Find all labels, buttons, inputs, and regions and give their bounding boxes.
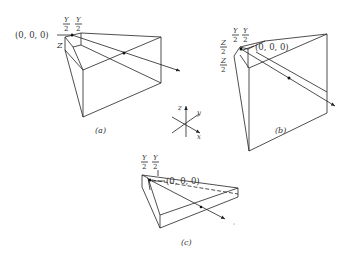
y-half-den-a2: 2 — [76, 25, 80, 33]
caption-c: (c) — [181, 238, 192, 247]
panel-c: (0, 0, 0) Y 2 Y 2 (c) — [141, 154, 238, 247]
diagram-canvas: (0, 0, 0) Y 2 Y 2 Z (a) (0, 0, 0) Y 2 Y … — [0, 0, 347, 256]
y-half-label-c2: Y — [153, 154, 159, 162]
y-half-den-b1: 2 — [233, 36, 237, 44]
axis-x-label: x — [197, 133, 201, 141]
panel-b: (0, 0, 0) Y 2 Y 2 Z 2 Z 2 (b) — [220, 27, 335, 151]
caption-b: (b) — [275, 126, 286, 135]
y-half-den-a1: 2 — [64, 25, 68, 33]
panel-a: (0, 0, 0) Y 2 Y 2 Z (a) — [15, 16, 180, 135]
origin-label-a: (0, 0, 0) — [15, 30, 49, 40]
y-half-den-c1: 2 — [142, 163, 146, 171]
y-half-label-b2: Y — [243, 27, 249, 35]
axis-y-label: y — [196, 109, 202, 117]
y-half-den-c2: 2 — [153, 163, 157, 171]
y-half-label-b1: Y — [233, 27, 239, 35]
caption-a: (a) — [95, 126, 106, 135]
axis-z-label: z — [177, 104, 182, 112]
origin-label-b: (0, 0, 0) — [255, 42, 289, 52]
y-half-den-b2: 2 — [243, 36, 247, 44]
y-half-label-a1: Y — [64, 16, 70, 24]
z-half-label-b2: Z — [220, 57, 226, 65]
z-label-a: Z — [56, 41, 63, 50]
origin-label-c: (0, 0, 0) — [166, 176, 200, 186]
z-half-den-b2: 2 — [221, 66, 225, 74]
y-half-label-c1: Y — [142, 154, 148, 162]
z-half-den-b1: 2 — [221, 48, 225, 56]
z-half-label-b1: Z — [220, 39, 226, 47]
y-half-label-a2: Y — [76, 16, 82, 24]
axes-triad: z y x — [172, 104, 202, 141]
